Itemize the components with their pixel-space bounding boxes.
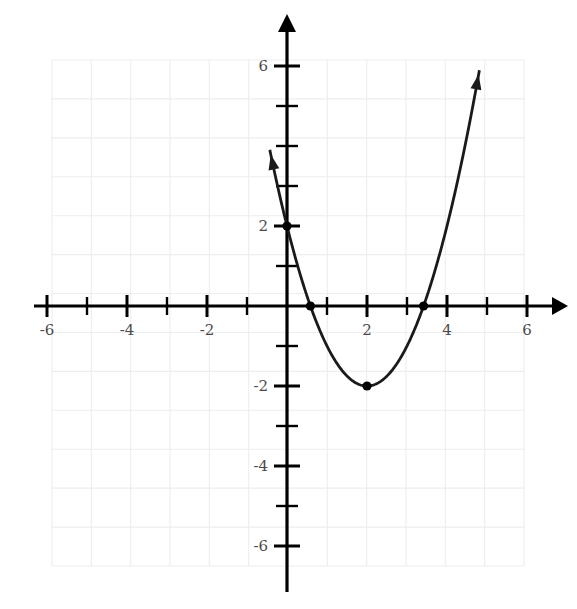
y-axis-arrowhead [278,14,296,32]
x-axis-arrowhead [552,297,568,315]
plot-point [362,381,371,390]
y-tick-label: -2 [253,377,268,395]
x-tick-label: -6 [40,321,55,339]
x-tick-label: 6 [522,321,532,339]
y-tick-label: -6 [253,537,268,555]
plot-point [306,301,315,310]
y-tick-label: 2 [258,217,268,235]
x-tick-label: -2 [200,321,215,339]
x-tick-label: 2 [362,321,372,339]
plot-point [282,221,291,230]
x-tick-label: 4 [442,321,452,339]
x-tick-label: -4 [120,321,135,339]
y-tick-label: 6 [258,57,268,75]
plot-point [419,301,428,310]
y-tick-label: -4 [253,457,268,475]
graph-canvas: -6-4-224662-2-4-6 [0,0,577,609]
parabola-graph: -6-4-224662-2-4-6 [0,0,577,609]
